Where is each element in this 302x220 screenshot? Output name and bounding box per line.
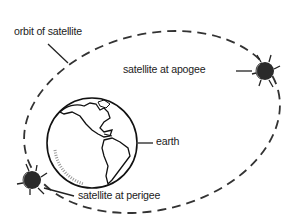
orbit-label: orbit of satellite — [14, 25, 82, 37]
apogee-label: satellite at apogee — [123, 63, 205, 75]
orbit-leader-line — [48, 44, 68, 63]
orbit-ellipse — [5, 5, 300, 220]
earth-label: earth — [156, 135, 179, 147]
satellite-perigee-icon — [17, 164, 47, 195]
perigee-label: satellite at perigee — [78, 189, 160, 201]
earth-globe — [47, 98, 137, 188]
